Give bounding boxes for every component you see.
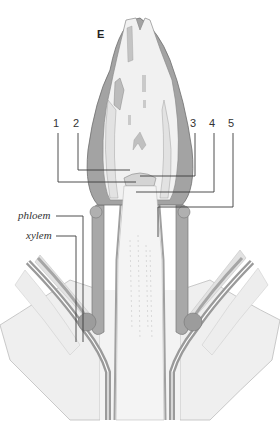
callout-3: 3 xyxy=(190,118,196,129)
bud-interior xyxy=(103,18,179,200)
stem-core xyxy=(116,186,164,420)
xylem-label: xylem xyxy=(26,230,52,241)
callout-5: 5 xyxy=(228,118,234,129)
callout-4: 4 xyxy=(209,118,215,129)
callout-1: 1 xyxy=(53,118,59,129)
phloem-label: phloem xyxy=(18,210,50,221)
callout-2: 2 xyxy=(73,118,79,129)
shoot-apex-diagram: E 1 2 3 4 5 phloem xylem xyxy=(0,0,280,433)
panel-label: E xyxy=(97,28,104,40)
